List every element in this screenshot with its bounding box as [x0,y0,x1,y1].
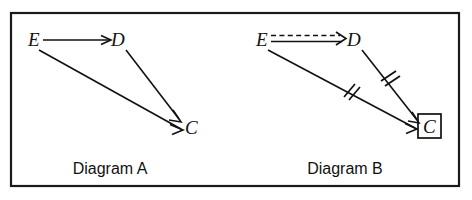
node-label-d-diagram-a: D [110,29,125,50]
node-label-c-diagram-b: C [423,116,436,137]
node-label-d-diagram-b: D [346,29,361,50]
caption-diagram-b: Diagram B [307,160,383,177]
diagram-figure: E D C Diagram A [0,0,472,200]
node-boxed-c-diagram-b: C [418,114,441,138]
node-label-e-diagram-a: E [27,29,40,50]
edge-e-to-d-diagram-a [43,36,111,45]
edge-e-to-d-diagram-b [271,32,346,45]
edge-shaft [362,50,417,120]
node-label-e-diagram-b: E [255,29,268,50]
edge-shaft [126,50,179,119]
edge-shaft [39,50,181,129]
diagram-b-group: E D C Diagram B [255,29,441,177]
edge-d-to-c-diagram-b [362,50,419,123]
tick-marks-double [381,71,400,86]
arrowhead-icon [169,110,181,122]
diagram-a-group: E D C Diagram A [27,29,198,177]
arrowhead-icon [336,32,346,45]
edge-d-to-c-diagram-a [126,50,181,122]
node-label-c-diagram-a: C [185,117,198,138]
edge-e-to-c-diagram-a [39,50,183,135]
figure-canvas: E D C Diagram A [0,0,472,200]
caption-diagram-a: Diagram A [73,160,148,177]
